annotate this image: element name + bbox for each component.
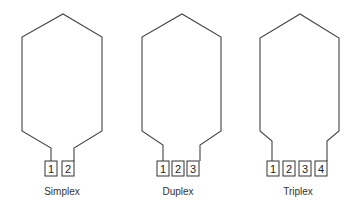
box-label: 3 <box>190 163 196 175</box>
box-label: 4 <box>318 163 324 175</box>
box-label: 2 <box>175 163 181 175</box>
box-label: 1 <box>160 163 166 175</box>
duplex-box-2: 2 <box>172 161 184 176</box>
duplex-diagram: 1 2 3 Duplex <box>142 14 221 197</box>
simplex-diagram: 1 2 Simplex <box>22 14 102 197</box>
simplex-box-1: 1 <box>45 161 57 176</box>
duplex-box-1: 1 <box>157 161 169 176</box>
simplex-container-outline <box>22 14 102 161</box>
box-label: 3 <box>302 163 308 175</box>
duplex-box-3: 3 <box>187 161 199 176</box>
box-label: 1 <box>48 163 54 175</box>
triplex-box-4: 4 <box>315 161 327 176</box>
duplex-label: Duplex <box>162 186 193 197</box>
configuration-diagrams: 1 2 Simplex 1 2 3 Duplex 1 <box>0 0 354 204</box>
duplex-container-outline <box>142 14 221 161</box>
simplex-box-2: 2 <box>62 161 74 176</box>
box-label: 2 <box>65 163 71 175</box>
triplex-box-2: 2 <box>283 161 295 176</box>
simplex-label: Simplex <box>44 186 80 197</box>
box-label: 1 <box>270 163 276 175</box>
triplex-container-outline <box>260 14 339 161</box>
box-label: 2 <box>286 163 292 175</box>
triplex-box-1: 1 <box>267 161 279 176</box>
triplex-box-3: 3 <box>299 161 311 176</box>
triplex-label: Triplex <box>283 186 313 197</box>
triplex-diagram: 1 2 3 4 Triplex <box>260 14 339 197</box>
